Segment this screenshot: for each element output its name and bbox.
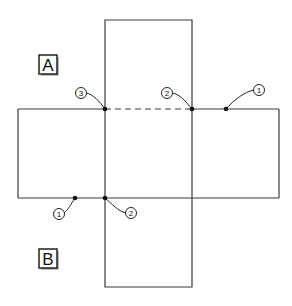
label-text: B [42, 250, 53, 269]
callout-number: 2 [165, 89, 170, 98]
point-3 [103, 107, 108, 112]
callout-number: 1 [57, 210, 62, 219]
callout-3: 3 [76, 88, 87, 99]
point-2-top [190, 107, 195, 112]
bottom-square-edges [105, 198, 192, 287]
label-a: A [39, 55, 59, 76]
leader-1-top [226, 90, 254, 109]
callout-number: 1 [257, 86, 262, 95]
cross-net-diagram: 1 2 3 1 2 A B [0, 0, 292, 306]
callout-points [73, 107, 229, 201]
leader-2-top [172, 93, 192, 109]
callout-number: 2 [129, 209, 134, 218]
callout-1-top: 1 [254, 85, 265, 96]
leader-3 [86, 93, 105, 109]
leader-1-bottom [64, 198, 75, 213]
leader-2-bottom [105, 198, 126, 213]
callout-2-bottom: 2 [126, 208, 137, 219]
point-1-bottom [73, 196, 78, 201]
point-1-top [224, 107, 229, 112]
label-text: A [42, 56, 54, 75]
callout-2-top: 2 [162, 88, 173, 99]
callout-1-bottom: 1 [54, 209, 65, 220]
label-b: B [39, 249, 59, 270]
callout-number: 3 [79, 89, 84, 98]
point-2-bottom [103, 196, 108, 201]
